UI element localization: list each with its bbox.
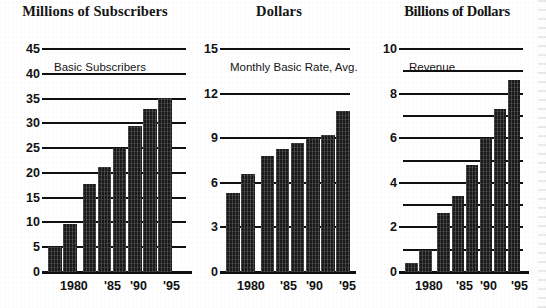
x-axis-tick-label: '85 xyxy=(104,280,121,293)
y-axis-tick xyxy=(42,271,47,273)
y-axis-tick xyxy=(399,93,404,95)
y-axis-tick xyxy=(42,73,47,75)
y-axis-tick-label: 40 xyxy=(16,68,40,81)
bar xyxy=(336,111,350,272)
bar xyxy=(508,80,521,272)
y-axis-tick-label: 45 xyxy=(16,43,40,56)
x-axis-tick-label: '85 xyxy=(280,280,297,293)
y-axis-tick-label: 6 xyxy=(373,132,397,145)
bar-series xyxy=(48,49,186,272)
panel-billions-of-dollars: Billions of Dollars 0246810Revenue1980'8… xyxy=(368,0,546,308)
x-axis-tick-label: '95 xyxy=(163,280,180,293)
bar xyxy=(128,126,142,272)
bar xyxy=(452,196,465,272)
y-axis-tick-label: 5 xyxy=(16,241,40,254)
y-axis-tick xyxy=(220,48,225,50)
bar xyxy=(226,193,240,272)
y-axis-tick-label: 6 xyxy=(194,177,218,190)
bar xyxy=(405,263,418,272)
y-axis-tick xyxy=(399,137,404,139)
y-axis-tick xyxy=(42,48,47,50)
y-axis-tick-label: 15 xyxy=(194,43,218,56)
bar xyxy=(83,184,97,272)
bar xyxy=(494,109,507,272)
x-axis-tick-label: 1980 xyxy=(60,280,88,293)
panel-dollars: Dollars 03691215Monthly Basic Rate, Avg.… xyxy=(190,0,368,308)
x-axis-tick-label: '95 xyxy=(339,280,356,293)
x-axis-tick-label: '90 xyxy=(130,280,147,293)
bar-series xyxy=(405,49,523,272)
bar xyxy=(291,143,305,272)
x-axis-tick-label: 1980 xyxy=(237,280,265,293)
y-axis-tick xyxy=(42,246,47,248)
bar xyxy=(306,138,320,272)
x-axis-tick-label: 1980 xyxy=(415,280,443,293)
bar xyxy=(143,109,157,272)
y-axis-tick xyxy=(42,147,47,149)
bar xyxy=(261,156,275,272)
plot-area-1: 051015202530354045Basic Subscribers1980'… xyxy=(0,0,190,308)
y-axis-tick-label: 20 xyxy=(16,167,40,180)
y-axis-tick-label: 10 xyxy=(16,216,40,229)
y-axis-tick xyxy=(399,48,404,50)
y-axis-tick xyxy=(220,271,225,273)
y-axis-tick xyxy=(399,182,404,184)
y-axis-tick-label: 9 xyxy=(194,132,218,145)
y-axis-tick-label: 12 xyxy=(194,87,218,100)
bar xyxy=(113,148,127,272)
y-axis-tick xyxy=(42,197,47,199)
bar xyxy=(419,250,432,272)
y-axis-tick-label: 10 xyxy=(373,43,397,56)
y-axis-tick xyxy=(399,271,404,273)
bar xyxy=(241,174,255,272)
y-axis-tick xyxy=(42,98,47,100)
bar-series xyxy=(226,49,350,272)
y-axis-tick-label: 15 xyxy=(16,191,40,204)
y-axis-tick-label: 3 xyxy=(194,221,218,234)
bar xyxy=(48,247,62,272)
bar xyxy=(466,165,479,272)
y-axis-tick-label: 8 xyxy=(373,87,397,100)
x-axis-tick-label: '95 xyxy=(511,280,528,293)
y-axis-tick-label: 4 xyxy=(373,177,397,190)
y-axis-tick xyxy=(42,172,47,174)
bar xyxy=(480,138,493,272)
bar xyxy=(98,167,112,272)
panel-millions-of-subscribers: Millions of Subscribers 0510152025303540… xyxy=(0,0,190,308)
y-axis-tick xyxy=(220,137,225,139)
bar xyxy=(158,98,172,272)
bar xyxy=(437,213,450,272)
bar xyxy=(63,224,77,272)
y-axis-tick-label: 0 xyxy=(194,266,218,279)
y-axis-tick xyxy=(399,226,404,228)
x-axis-tick-label: '85 xyxy=(456,280,473,293)
bar xyxy=(321,135,335,272)
chart-panels: Millions of Subscribers 0510152025303540… xyxy=(0,0,546,308)
y-axis-tick-label: 2 xyxy=(373,221,397,234)
y-axis-tick xyxy=(42,221,47,223)
y-axis-tick-label: 25 xyxy=(16,142,40,155)
plot-area-2: 03691215Monthly Basic Rate, Avg.1980'85'… xyxy=(190,0,368,308)
y-axis-tick xyxy=(220,182,225,184)
y-axis-tick-label: 35 xyxy=(16,92,40,105)
y-axis-tick-label: 30 xyxy=(16,117,40,130)
x-axis-tick-label: '90 xyxy=(306,280,323,293)
bar xyxy=(276,149,290,272)
x-axis-tick-label: '90 xyxy=(480,280,497,293)
plot-area-3: 0246810Revenue1980'85'90'95 xyxy=(368,0,546,308)
y-axis-tick xyxy=(220,93,225,95)
y-axis-tick xyxy=(42,122,47,124)
y-axis-tick-label: 0 xyxy=(16,266,40,279)
y-axis-tick xyxy=(220,226,225,228)
y-axis-tick-label: 0 xyxy=(373,266,397,279)
